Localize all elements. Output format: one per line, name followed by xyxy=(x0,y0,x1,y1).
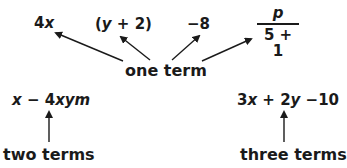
term-fraction: p 5 + 1 xyxy=(257,5,299,59)
arrow-to-fraction xyxy=(202,39,251,61)
fraction-denominator: 5 + 1 xyxy=(257,27,299,59)
arrow-to-4x xyxy=(56,33,123,61)
label-two-terms: two terms xyxy=(3,147,95,163)
fraction-numerator: p xyxy=(257,5,299,22)
arrow-to-minus-8 xyxy=(172,36,199,60)
term-4x: 4x xyxy=(34,16,54,31)
fraction-bar xyxy=(257,23,299,25)
label-three-terms: three terms xyxy=(240,147,347,163)
term-minus-8: −8 xyxy=(187,17,210,32)
expression-three-terms: 3x + 2y −10 xyxy=(237,93,339,108)
term-y-plus-2: (y + 2) xyxy=(95,17,152,32)
expression-two-terms: x − 4xym xyxy=(12,93,90,108)
arrow-to-y-plus-2 xyxy=(121,37,150,60)
label-one-term: one term xyxy=(125,63,207,79)
